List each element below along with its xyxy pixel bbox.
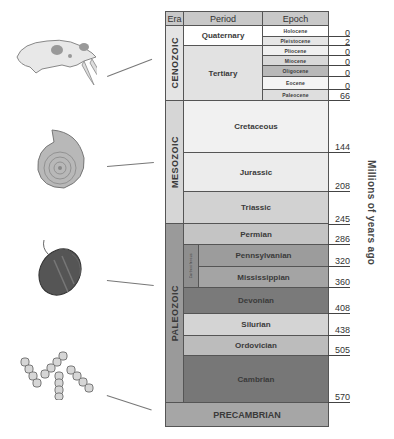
bacteria-chains-icon [15, 350, 95, 400]
leader-line-cenozoic [107, 59, 152, 77]
tick [328, 100, 350, 101]
tick [328, 224, 350, 225]
era-label: CENOZOIC [170, 37, 180, 89]
mya-438: 438 [326, 325, 350, 335]
leader-line-precambrian [107, 395, 152, 410]
tick [328, 244, 350, 245]
period-tertiary: Tertiary [183, 45, 263, 101]
mya-208: 208 [326, 181, 350, 191]
ammonite-icon [34, 128, 88, 190]
tick [328, 402, 350, 403]
epoch-eocene: Eocene [262, 76, 329, 90]
mya-408: 408 [326, 303, 350, 313]
saber-tooth-skull-icon [12, 35, 97, 85]
header-period: Period [183, 11, 263, 26]
tick [328, 65, 350, 66]
tick [328, 76, 350, 77]
mya-286: 286 [326, 234, 350, 244]
tick [328, 313, 350, 314]
tick [328, 266, 350, 267]
period-devonian: Devonian [183, 287, 329, 314]
tick [328, 45, 350, 46]
period-permian: Permian [183, 223, 329, 245]
era-label: PALEOZOIC [170, 285, 180, 341]
period-jurassic: Jurassic [183, 152, 329, 192]
tick [328, 355, 350, 356]
mya-144: 144 [326, 142, 350, 152]
mya-245: 245 [326, 214, 350, 224]
tick [328, 335, 350, 336]
leader-line-paleozoic [107, 280, 154, 286]
era-cenozoic: CENOZOIC [165, 25, 184, 101]
era-mesozoic: MESOZOIC [165, 100, 184, 224]
mya-360: 360 [326, 277, 350, 287]
carboniferous-label: Carboniferous [189, 253, 193, 278]
period-quaternary: Quaternary [183, 25, 263, 46]
tick [328, 89, 350, 90]
leader-line-mesozoic [107, 162, 154, 167]
period-triassic: Triassic [183, 191, 329, 224]
header-era: Era [165, 11, 184, 26]
tick [328, 191, 350, 192]
period-carboniferous: Carboniferous [183, 244, 199, 288]
period-pennsylvanian: Pennsylvanian [198, 244, 329, 267]
mya-505: 505 [326, 345, 350, 355]
period-cretaceous: Cretaceous [183, 100, 329, 153]
mya-570: 570 [326, 392, 350, 402]
trilobite-icon [34, 240, 86, 300]
header-epoch: Epoch [262, 11, 329, 26]
tick [328, 36, 350, 37]
period-cambrian: Cambrian [183, 355, 329, 403]
period-mississippian: Mississippian [198, 266, 329, 288]
tick [328, 55, 350, 56]
period-silurian: Silurian [183, 313, 329, 336]
mya-320: 320 [326, 256, 350, 266]
tick [328, 287, 350, 288]
tick [328, 152, 350, 153]
era-paleozoic: PALEOZOIC [165, 223, 184, 403]
axis-label: Millions of years ago [366, 160, 377, 265]
period-ordovician: Ordovician [183, 335, 329, 356]
era-label: MESOZOIC [170, 136, 180, 188]
era-precambrian: PRECAMBRIAN [165, 402, 329, 427]
